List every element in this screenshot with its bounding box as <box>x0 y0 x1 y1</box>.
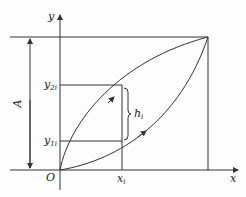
lower-curve <box>60 37 208 170</box>
y-axis-label: y <box>48 11 54 22</box>
lower-curve-arrow-icon <box>138 131 146 137</box>
y2i-sub: 2i <box>50 84 57 92</box>
origin-label: O <box>46 172 55 183</box>
y1i-sub: 1i <box>50 140 57 148</box>
x-axis-label: x <box>230 173 236 184</box>
a-label: A <box>12 100 23 108</box>
y2i-label: y2i <box>44 79 57 92</box>
y1i-label: y1i <box>44 135 57 148</box>
upper-curve <box>60 37 208 170</box>
hi-brace <box>124 88 131 140</box>
xi-sub: i <box>123 178 125 186</box>
hi-label: hi <box>134 108 143 121</box>
upper-curve-arrow-icon <box>108 97 114 103</box>
diagram: y x O y2i y1i xi hi A <box>0 0 246 197</box>
diagram-graphics <box>0 0 246 197</box>
xi-label: xi <box>117 173 125 186</box>
hi-sub: i <box>141 113 143 121</box>
